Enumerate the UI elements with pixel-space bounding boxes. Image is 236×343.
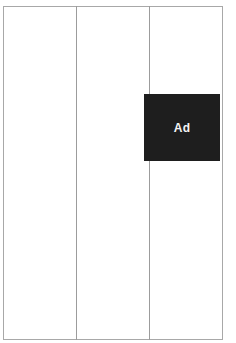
- ad-label: Ad: [174, 121, 190, 135]
- page-frame: [3, 6, 223, 340]
- ad-placeholder[interactable]: Ad: [144, 94, 220, 161]
- column-divider-2: [149, 6, 150, 340]
- column-divider-1: [76, 6, 77, 340]
